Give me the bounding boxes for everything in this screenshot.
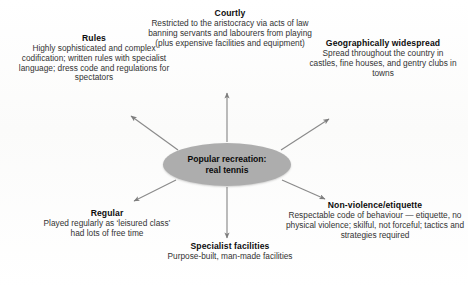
node-regular-title: Regular [42,208,172,218]
node-geographically-widespread-title: Geographically widespread [308,38,458,48]
arrow-to-non-violence-etiquette [282,180,325,199]
arrow-to-regular [134,180,176,201]
mind-map-diagram: Popular recreation: real tennis Rules Hi… [0,0,468,288]
arrow-to-geographically-widespread [281,119,329,150]
node-courtly-title: Courtly [140,8,320,18]
node-regular: Regular Played regularly as ‘leisured cl… [42,208,172,239]
node-rules-body: Highly sophisticated and complex codific… [14,44,174,83]
centre-node: Popular recreation: real tennis [163,143,291,186]
node-non-violence-etiquette: Non-violence/etiquette Respectable code … [284,200,466,240]
node-specialist-facilities-title: Specialist facilities [166,241,294,251]
node-geographically-widespread: Geographically widespread Spread through… [308,38,458,78]
centre-node-label: Popular recreation: real tennis [188,154,267,175]
node-regular-body: Played regularly as ‘leisured class’ had… [42,219,172,239]
node-non-violence-etiquette-title: Non-violence/etiquette [284,200,466,210]
arrow-to-rules [131,116,178,150]
node-geographically-widespread-body: Spread throughout the country in castles… [308,49,458,78]
node-courtly-body: Restricted to the aristocracy via acts o… [140,19,320,48]
node-non-violence-etiquette-body: Respectable code of behaviour — etiquett… [284,211,466,240]
node-specialist-facilities-body: Purpose-built, man-made facilities [166,252,294,262]
node-courtly: Courtly Restricted to the aristocracy vi… [140,8,320,48]
node-specialist-facilities: Specialist facilities Purpose-built, man… [166,241,294,262]
